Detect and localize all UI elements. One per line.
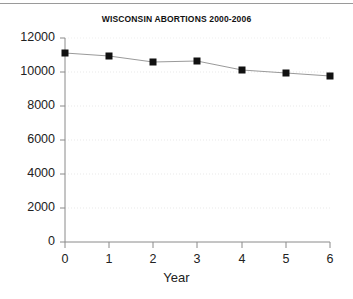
x-tick-label: 0 [50, 253, 80, 266]
chart-figure: WISCONSIN ABORTIONS 2000-2006 [0, 0, 353, 299]
x-tick-label: 6 [315, 253, 345, 266]
x-tick-label: 2 [138, 253, 168, 266]
x-axis-tick-labels: 0 1 2 3 4 5 6 [0, 0, 353, 299]
x-tick-label: 1 [94, 253, 124, 266]
x-axis-title: Year [0, 270, 353, 285]
x-tick-label: 4 [227, 253, 257, 266]
x-tick-label: 3 [182, 253, 212, 266]
x-tick-label: 5 [271, 253, 301, 266]
